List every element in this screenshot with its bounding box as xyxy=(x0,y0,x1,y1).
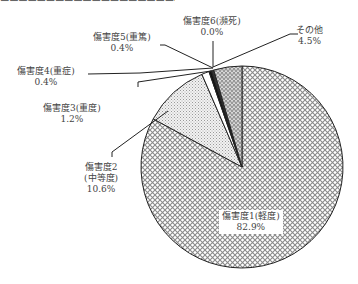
label-injury5: 傷害度5(重篤) 0.4% xyxy=(93,32,151,54)
label-injury6: 傷害度6(瀕死) 0.0% xyxy=(183,16,241,38)
label-other: その他 4.5% xyxy=(296,25,323,47)
label-injury4-value: 0.4% xyxy=(17,77,75,88)
label-injury2: 傷害度2 (中等度) 10.6% xyxy=(84,162,118,195)
label-other-value: 4.5% xyxy=(296,36,323,47)
label-injury1-name: 傷害度1(軽度) xyxy=(222,211,280,222)
label-injury2-sub: (中等度) xyxy=(84,173,118,184)
label-other-name: その他 xyxy=(296,25,323,36)
label-injury4-name: 傷害度4(重症) xyxy=(17,66,75,77)
label-injury3: 傷害度3(重度) 1.2% xyxy=(43,103,101,125)
label-injury6-name: 傷害度6(瀕死) xyxy=(183,16,241,27)
label-injury5-name: 傷害度5(重篤) xyxy=(93,32,151,43)
label-injury2-name: 傷害度2 xyxy=(84,162,118,173)
label-injury4: 傷害度4(重症) 0.4% xyxy=(17,66,75,88)
label-injury3-name: 傷害度3(重度) xyxy=(43,103,101,114)
pie-slices xyxy=(141,66,343,268)
leader-line-other xyxy=(213,34,298,67)
label-injury1-value: 82.9% xyxy=(222,222,280,233)
label-injury2-value: 10.6% xyxy=(84,184,118,195)
label-injury5-value: 0.4% xyxy=(93,43,151,54)
label-injury3-value: 1.2% xyxy=(43,114,101,125)
pie-chart: ■■■■■■■■■■■■■■■■■■■■■■■■■■■■ · · ■■■■■■■… xyxy=(0,0,358,284)
leader-line-injury5 xyxy=(160,45,213,68)
label-injury1: 傷害度1(軽度) 82.9% xyxy=(219,210,283,234)
label-injury6-value: 0.0% xyxy=(183,27,241,38)
